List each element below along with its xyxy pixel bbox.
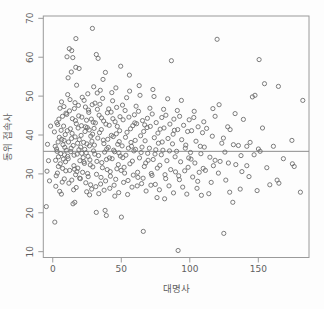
data-point: [65, 55, 69, 59]
data-point: [159, 153, 163, 157]
data-point: [92, 85, 96, 89]
data-point: [255, 189, 259, 193]
data-point: [213, 158, 217, 162]
data-point: [81, 156, 85, 160]
data-point: [241, 117, 245, 121]
data-point: [301, 98, 305, 102]
data-point: [128, 127, 132, 131]
data-point: [111, 99, 115, 103]
data-point: [76, 141, 80, 145]
data-point: [154, 121, 158, 125]
data-point: [130, 159, 134, 163]
data-point: [268, 183, 272, 187]
data-point: [152, 94, 156, 98]
data-point: [198, 144, 202, 148]
data-point: [110, 91, 114, 95]
data-point: [136, 170, 140, 174]
plot-canvas: 05010015010203040506070 대명사 동위 접속사: [0, 0, 324, 309]
data-point: [88, 193, 92, 197]
data-point: [86, 154, 90, 158]
data-point: [84, 118, 88, 122]
data-point: [112, 183, 116, 187]
data-point: [97, 192, 101, 196]
data-point: [231, 200, 235, 204]
data-point: [191, 175, 195, 179]
data-point: [234, 163, 238, 167]
data-point: [157, 188, 161, 192]
data-point: [90, 26, 94, 30]
data-point: [135, 184, 139, 188]
data-point: [213, 114, 217, 118]
data-point: [83, 129, 87, 133]
data-point: [179, 98, 183, 102]
data-point: [180, 138, 184, 142]
data-point: [233, 112, 237, 116]
data-point: [216, 171, 220, 175]
data-point: [74, 185, 78, 189]
data-point: [141, 229, 145, 233]
data-point: [123, 171, 127, 175]
data-point: [137, 156, 141, 160]
y-tick-label: 10: [25, 246, 35, 258]
data-point: [107, 107, 111, 111]
data-point: [186, 129, 190, 133]
data-point: [218, 159, 222, 163]
data-point: [164, 113, 168, 117]
data-point: [220, 141, 224, 145]
data-point: [207, 192, 211, 196]
data-point: [172, 117, 176, 121]
data-point: [104, 179, 108, 183]
data-point: [195, 186, 199, 190]
data-point: [158, 163, 162, 167]
data-point: [140, 145, 144, 149]
data-point: [60, 180, 64, 184]
data-point: [150, 112, 154, 116]
data-point: [228, 190, 232, 194]
data-point: [194, 139, 198, 143]
data-point: [120, 144, 124, 148]
data-point: [257, 58, 261, 62]
data-point: [211, 107, 215, 111]
data-point: [236, 143, 240, 147]
y-tick-label: 70: [25, 12, 35, 24]
data-point: [240, 170, 244, 174]
data-point: [136, 109, 140, 113]
data-point: [66, 93, 70, 97]
data-point: [126, 192, 130, 196]
data-point: [155, 196, 159, 200]
y-tick-label: 60: [25, 51, 35, 63]
data-point: [170, 142, 174, 146]
data-point: [192, 109, 196, 113]
data-point: [101, 96, 105, 100]
data-point: [239, 154, 243, 158]
data-point: [200, 131, 204, 135]
data-point: [102, 119, 106, 123]
y-tick-label: 30: [25, 168, 35, 180]
data-point: [75, 83, 79, 87]
data-point: [114, 177, 118, 181]
data-point: [165, 159, 169, 163]
data-point: [162, 107, 166, 111]
data-point: [116, 163, 120, 167]
data-point: [178, 114, 182, 118]
data-point: [113, 194, 117, 198]
data-point: [125, 96, 129, 100]
data-point: [45, 142, 49, 146]
data-point: [196, 179, 200, 183]
data-point: [49, 124, 53, 128]
data-point: [120, 103, 124, 107]
data-point: [44, 205, 48, 209]
data-point: [260, 126, 264, 130]
data-point: [127, 115, 131, 119]
data-point: [208, 155, 212, 159]
data-point: [169, 59, 173, 63]
data-point: [56, 140, 60, 144]
data-point: [68, 98, 72, 102]
data-point: [101, 77, 105, 81]
data-point: [95, 159, 99, 163]
data-point: [140, 119, 144, 123]
x-tick-label: 50: [116, 264, 128, 274]
data-point: [160, 115, 164, 119]
data-point: [98, 102, 102, 106]
plot-dynamic-layer: 05010015010203040506070: [25, 12, 309, 274]
